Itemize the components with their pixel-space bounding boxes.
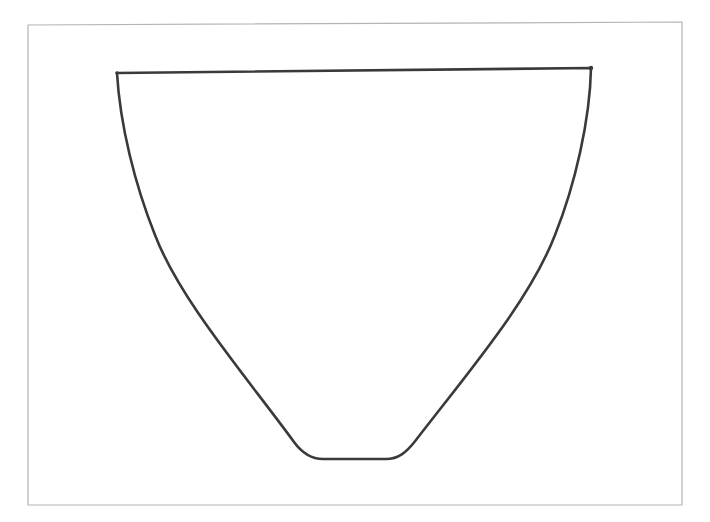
vessel-profile-diagram <box>0 0 710 522</box>
figure-background <box>0 0 710 522</box>
rim-right-endpoint <box>589 66 593 70</box>
rim-left-endpoint <box>115 71 119 75</box>
